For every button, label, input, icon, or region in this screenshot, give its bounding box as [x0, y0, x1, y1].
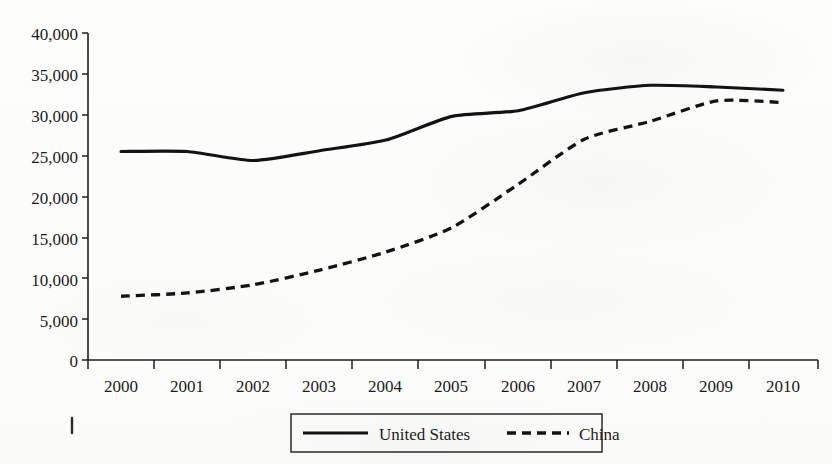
x-tick-label: 2004	[368, 377, 403, 396]
y-tick-label: 35,000	[31, 66, 78, 85]
legend: United States China	[291, 414, 620, 452]
y-tick-label: 15,000	[31, 230, 78, 249]
legend-label-united-states: United States	[379, 425, 470, 444]
series-line-china	[121, 100, 783, 296]
series-line-united-states	[121, 85, 783, 160]
x-tick-label: 2003	[302, 377, 336, 396]
x-tick-label: 2005	[434, 377, 468, 396]
y-tick-label: 25,000	[31, 148, 78, 167]
y-tick-label: 20,000	[31, 189, 78, 208]
x-tick-label: 2002	[236, 377, 270, 396]
legend-label-china: China	[579, 425, 620, 444]
x-tick-label: 2007	[567, 377, 602, 396]
x-tick-label: 2000	[104, 377, 138, 396]
x-axis	[88, 360, 818, 369]
y-tick-label: 10,000	[31, 271, 78, 290]
y-axis-tick-labels: 40,000 35,000 30,000 25,000 20,000 15,00…	[31, 25, 78, 371]
y-tick-label: 30,000	[31, 107, 78, 126]
y-axis	[82, 33, 88, 360]
y-tick-label: 5,000	[40, 312, 78, 331]
x-tick-label: 2006	[501, 377, 535, 396]
y-tick-label: 0	[70, 352, 79, 371]
y-tick-label: 40,000	[31, 25, 78, 44]
x-tick-label: 2001	[170, 377, 204, 396]
line-chart: 40,000 35,000 30,000 25,000 20,000 15,00…	[0, 0, 832, 464]
x-axis-tick-labels: 2000 2001 2002 2003 2004 2005 2006 2007 …	[104, 377, 800, 396]
plot-area	[121, 85, 783, 296]
x-tick-label: 2008	[633, 377, 667, 396]
x-tick-label: 2010	[766, 377, 800, 396]
x-tick-label: 2009	[699, 377, 733, 396]
